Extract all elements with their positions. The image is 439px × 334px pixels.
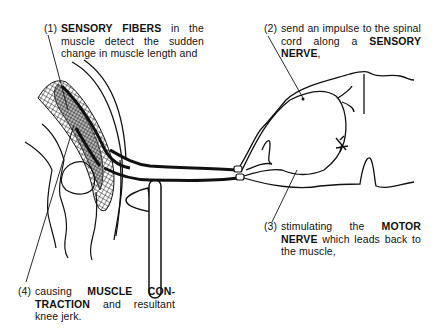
caption-motor-nerve: (3) stimulating the MOTOR NERVE which le… [264, 220, 421, 258]
reflex-arc-diagram: (1) SENSORY FIBERS in the muscle detect … [0, 0, 439, 334]
caption-text: SENSORY FIBERS in the muscle detect the … [44, 22, 204, 60]
reflex-hammer [126, 180, 161, 298]
caption-muscle-contraction: (4) causing MUSCLE CON-TRACTION and resu… [18, 285, 175, 323]
term-sensory-fibers: SENSORY FIBERS [61, 22, 161, 34]
caption-number: (2) [264, 22, 277, 35]
leader-line-4 [26, 125, 74, 282]
caption-text: send an impulse to the spinal cord along… [264, 22, 421, 60]
caption-pre: stimulating the [281, 220, 382, 232]
caption-number: (3) [264, 220, 277, 233]
dorsal-root-ganglion [262, 141, 272, 164]
caption-sensory-nerve: (2) send an impulse to the spinal cord a… [264, 22, 421, 60]
caption-text: causing MUSCLE CON-TRACTION and resultan… [18, 285, 175, 323]
caption-number: (4) [18, 285, 31, 298]
quadriceps-muscle [38, 81, 130, 211]
caption-number: (1) [44, 22, 57, 35]
leader-line-3 [272, 170, 297, 222]
spinal-cord-section [240, 72, 414, 188]
motor-neuron-synapse [336, 136, 348, 152]
caption-pre: causing [35, 285, 87, 297]
caption-text: stimulating the MOTOR NERVE which leads … [264, 220, 421, 258]
caption-sensory-fibers: (1) SENSORY FIBERS in the muscle detect … [44, 22, 204, 60]
caption-post: , [318, 47, 321, 59]
